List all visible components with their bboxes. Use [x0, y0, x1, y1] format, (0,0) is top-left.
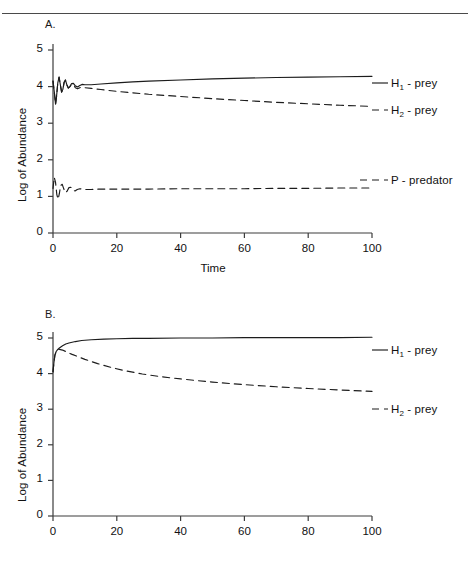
legend-b-h2-suffix: - prey	[404, 403, 437, 415]
legend-a-h1-suffix: - prey	[404, 77, 437, 89]
y-tick-label-2: 2	[19, 152, 43, 164]
legend-b-h1-sub: 1	[399, 350, 404, 359]
x-tick-label-60: 60	[224, 242, 264, 254]
legend-a-p-suffix: - predator	[399, 174, 453, 186]
x-tick-label-0: 0	[33, 525, 73, 537]
legend-b-h2-sub: 2	[399, 409, 404, 418]
panel-b-legend-h2: H2 - prey	[391, 403, 437, 415]
series-p-predator	[53, 177, 372, 199]
panel-b-legend-h1: H1 - prey	[391, 344, 437, 356]
y-tick-label-1: 1	[19, 472, 43, 484]
x-tick-label-40: 40	[161, 525, 201, 537]
x-tick-label-60: 60	[224, 525, 264, 537]
x-tick-label-20: 20	[97, 242, 137, 254]
y-tick-label-2: 2	[19, 437, 43, 449]
legend-a-p-base: P	[391, 174, 399, 186]
series-h1-prey	[53, 76, 372, 104]
y-tick-label-0: 0	[19, 225, 43, 237]
y-tick-label-4: 4	[19, 366, 43, 378]
panel-b: B. Log of Abundance H1 - prey H2 - prey …	[0, 290, 470, 571]
series-h1-prey	[53, 337, 372, 372]
series-h2-prey	[53, 77, 372, 106]
y-tick-label-0: 0	[19, 508, 43, 520]
legend-a-h1-sub: 1	[399, 83, 404, 92]
panel-a-legend-predator: P - predator	[391, 174, 453, 186]
y-tick-label-3: 3	[19, 401, 43, 413]
panel-a: A. Log of Abundance Time H1 - prey H2 - …	[0, 0, 470, 290]
legend-b-h1-suffix: - prey	[404, 344, 437, 356]
x-tick-label-80: 80	[288, 242, 328, 254]
x-tick-label-80: 80	[288, 525, 328, 537]
y-tick-label-1: 1	[19, 188, 43, 200]
legend-a-h2-suffix: - prey	[404, 104, 437, 116]
y-tick-label-3: 3	[19, 115, 43, 127]
panel-a-legend-h2: H2 - prey	[391, 104, 437, 116]
x-tick-label-40: 40	[161, 242, 201, 254]
x-tick-label-100: 100	[352, 242, 392, 254]
panel-a-legend-h1: H1 - prey	[391, 77, 437, 89]
x-tick-label-100: 100	[352, 525, 392, 537]
figure-page: A. Log of Abundance Time H1 - prey H2 - …	[0, 0, 470, 571]
legend-a-h2-sub: 2	[399, 110, 404, 119]
y-tick-label-5: 5	[19, 330, 43, 342]
x-tick-label-20: 20	[97, 525, 137, 537]
y-tick-label-5: 5	[19, 42, 43, 54]
y-tick-label-4: 4	[19, 79, 43, 91]
series-h2-prey	[53, 349, 372, 391]
x-tick-label-0: 0	[33, 242, 73, 254]
